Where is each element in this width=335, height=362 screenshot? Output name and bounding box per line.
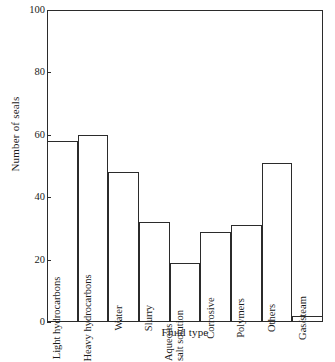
y-tick-label: 0: [0, 317, 45, 328]
bar-category-label-line: salt solution: [174, 275, 185, 361]
y-tick-label: 80: [0, 67, 45, 78]
y-tick-label: 100: [0, 5, 45, 16]
bar-category-label: Light hydrocarbons: [51, 277, 62, 360]
y-tick-label: 20: [0, 254, 45, 265]
x-axis-title: Fluid type: [47, 326, 323, 338]
bar-category-label-line: Aqueous: [163, 275, 174, 361]
y-tick-label: 60: [0, 130, 45, 141]
bar[interactable]: [108, 172, 139, 322]
bar[interactable]: [262, 163, 293, 322]
bars-group: Light hydrocarbonsHeavy hydrocarbonsWate…: [47, 10, 323, 322]
bar-category-label: Aqueoussalt solution: [163, 275, 185, 361]
y-tick-label: 40: [0, 192, 45, 203]
bar-category-label: Heavy hydrocarbons: [82, 274, 93, 361]
